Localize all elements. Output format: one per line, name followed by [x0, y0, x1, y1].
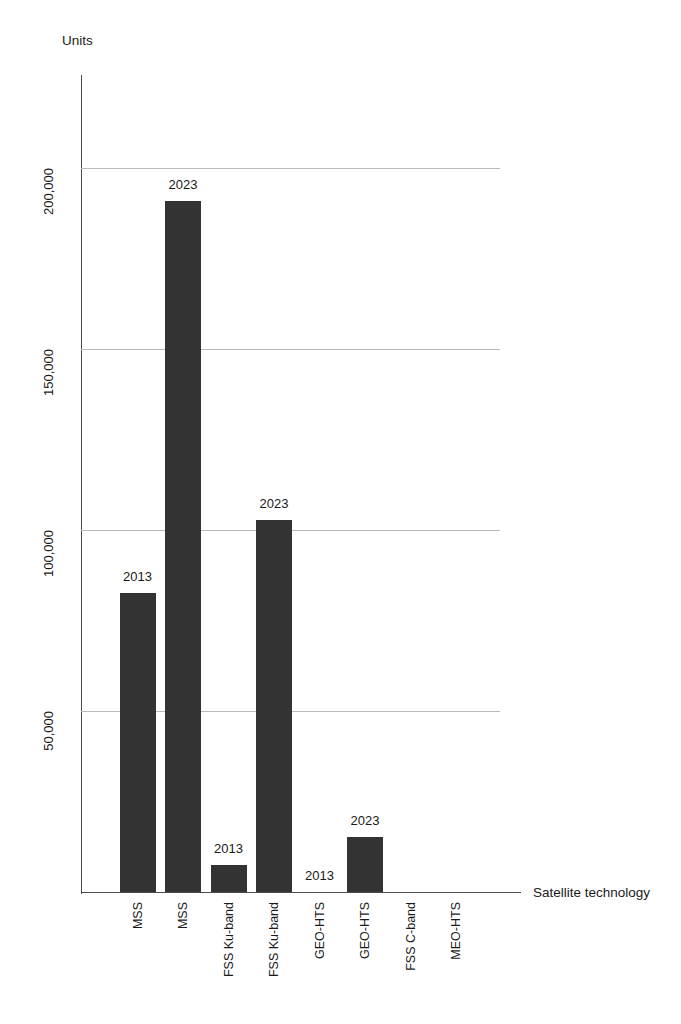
x-tick-label: FSS Ku-band	[222, 902, 236, 977]
x-axis-title: Satellite technology	[533, 885, 650, 900]
x-tick-label: GEO-HTS	[313, 902, 327, 959]
bar-value-label: 2013	[214, 841, 243, 856]
x-tick-label: FSS Ku-band	[267, 902, 281, 977]
x-tick-label: FSS C-band	[404, 902, 418, 971]
gridline	[81, 349, 500, 350]
x-tick-label: MSS	[176, 902, 190, 929]
bar-chart: Units 50,000100,000150,000200,000 201320…	[0, 0, 681, 1024]
bar-value-label: 2023	[351, 813, 380, 828]
y-axis-line	[81, 75, 82, 894]
bar[interactable]	[165, 201, 201, 892]
bar-value-label: 2013	[305, 868, 334, 883]
y-axis-title: Units	[62, 33, 93, 48]
bar-value-label: 2013	[123, 569, 152, 584]
bar-value-label: 2023	[260, 496, 289, 511]
x-tick-label: MEO-HTS	[449, 902, 463, 960]
y-tick-label: 100,000	[41, 530, 56, 577]
gridline	[81, 168, 500, 169]
bar-value-label: 2023	[169, 177, 198, 192]
bar[interactable]	[211, 865, 247, 892]
y-tick-label: 50,000	[41, 711, 56, 751]
x-tick-label: MSS	[131, 902, 145, 929]
bar[interactable]	[120, 593, 156, 892]
x-axis-line	[81, 892, 521, 893]
x-tick-label: GEO-HTS	[358, 902, 372, 959]
y-tick-label: 150,000	[41, 349, 56, 396]
bar[interactable]	[256, 520, 292, 892]
bar[interactable]	[347, 837, 383, 892]
y-tick-label: 200,000	[41, 168, 56, 215]
